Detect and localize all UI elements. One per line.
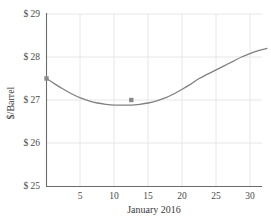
x-axis-title: January 2016 xyxy=(127,204,181,215)
y-tick-label-26: $ 26 xyxy=(23,138,40,148)
x-tick-label-10: 10 xyxy=(109,191,119,201)
x-tick-label-5: 5 xyxy=(78,191,83,201)
x-tick-label-20: 20 xyxy=(177,191,187,201)
y-tick-label-28: $ 28 xyxy=(23,52,40,62)
y-tick-label-27: $ 27 xyxy=(23,95,40,105)
x-tick-label-25: 25 xyxy=(211,191,221,201)
marker-minimum-point xyxy=(129,98,133,102)
x-tick-label-15: 15 xyxy=(143,191,153,201)
marker-start-point xyxy=(44,76,48,80)
oil-price-chart: $ 29 $ 28 $ 27 $ 26 $ 25 5 10 15 20 25 3… xyxy=(0,0,271,218)
y-axis-title: $/Barrel xyxy=(5,86,16,119)
y-tick-label-29: $ 29 xyxy=(23,9,40,19)
chart-canvas: $ 29 $ 28 $ 27 $ 26 $ 25 5 10 15 20 25 3… xyxy=(0,0,271,218)
x-tick-label-30: 30 xyxy=(245,191,255,201)
y-tick-label-25: $ 25 xyxy=(23,181,40,191)
chart-background xyxy=(0,0,271,218)
